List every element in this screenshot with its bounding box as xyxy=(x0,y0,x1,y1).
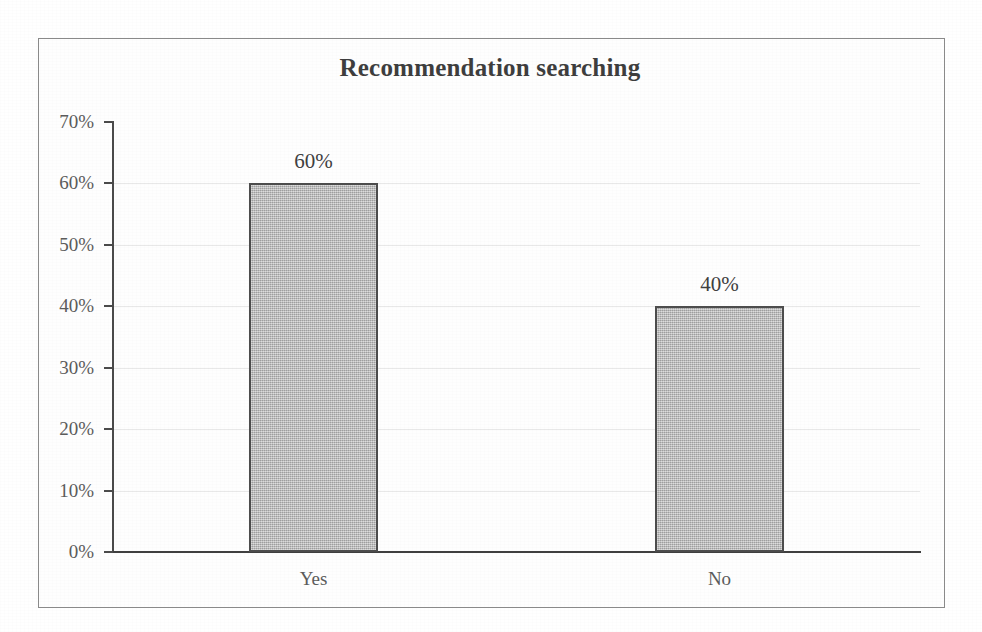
x-axis-line xyxy=(112,551,921,553)
y-tick-mark-60 xyxy=(104,182,113,184)
y-tick-mark-0 xyxy=(104,551,113,553)
y-tick-label-40: 40% xyxy=(34,295,94,317)
y-tick-mark-40 xyxy=(104,305,113,307)
y-tick-label-30: 30% xyxy=(34,356,94,378)
x-category-label-yes: Yes xyxy=(300,568,328,590)
gridline-40 xyxy=(113,306,920,307)
gridline-20 xyxy=(113,429,920,430)
gridline-30 xyxy=(113,368,920,369)
gridline-10 xyxy=(113,491,920,492)
y-tick-label-60: 60% xyxy=(34,172,94,194)
bar-value-label-yes: 60% xyxy=(294,149,333,174)
y-tick-label-0: 0% xyxy=(34,541,94,563)
y-tick-label-50: 50% xyxy=(34,233,94,255)
y-tick-mark-50 xyxy=(104,244,113,246)
plot-area xyxy=(113,122,920,552)
bar-no xyxy=(655,306,784,552)
y-tick-label-20: 20% xyxy=(34,418,94,440)
y-axis-line xyxy=(112,121,114,553)
y-tick-mark-70 xyxy=(104,121,113,123)
y-tick-mark-20 xyxy=(104,428,113,430)
gridline-50 xyxy=(113,245,920,246)
bar-yes xyxy=(249,183,378,552)
y-tick-mark-10 xyxy=(104,490,113,492)
gridline-60 xyxy=(113,183,920,184)
y-tick-label-10: 10% xyxy=(34,479,94,501)
x-category-label-no: No xyxy=(708,568,731,590)
y-tick-label-70: 70% xyxy=(34,111,94,133)
y-axis-tick-labels: 70%60%50%40%30%20%10%0% xyxy=(34,0,94,632)
y-tick-mark-30 xyxy=(104,367,113,369)
chart-title: Recommendation searching xyxy=(120,54,860,82)
bar-value-label-no: 40% xyxy=(700,272,739,297)
